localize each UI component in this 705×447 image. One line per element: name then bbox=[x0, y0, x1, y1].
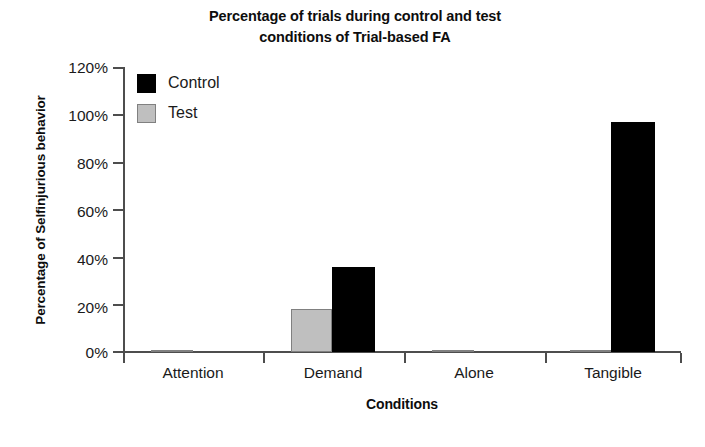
chart-legend: Control Test bbox=[137, 70, 267, 130]
y-tick-mark-120 bbox=[113, 67, 123, 69]
x-tick-mark-1 bbox=[263, 353, 265, 363]
bar-test-alone bbox=[432, 350, 474, 352]
x-tick-label-alone: Alone bbox=[404, 364, 544, 382]
legend-item-test: Test bbox=[137, 100, 267, 126]
bar-control-demand bbox=[332, 267, 375, 352]
legend-label-test: Test bbox=[168, 104, 197, 122]
x-tick-label-attention: Attention bbox=[123, 364, 263, 382]
legend-swatch-control-icon bbox=[137, 74, 156, 93]
y-tick-label-40: 40% bbox=[54, 252, 108, 267]
y-tick-label-20: 20% bbox=[54, 300, 108, 315]
y-tick-label-0: 0% bbox=[54, 345, 108, 360]
y-tick-label-60: 60% bbox=[54, 204, 108, 219]
chart-title-line-2: conditions of Trial-based FA bbox=[120, 27, 590, 48]
bar-control-tangible bbox=[611, 122, 655, 352]
x-tick-mark-3 bbox=[545, 353, 547, 363]
y-axis-title: Percentage of Selfinjurious behavior bbox=[33, 95, 48, 324]
y-tick-mark-60 bbox=[113, 209, 123, 211]
y-tick-mark-20 bbox=[113, 304, 123, 306]
bar-chart-figure: Percentage of trials during control and … bbox=[0, 0, 705, 447]
legend-swatch-test-icon bbox=[137, 104, 156, 123]
y-tick-mark-40 bbox=[113, 257, 123, 259]
x-tick-label-demand: Demand bbox=[263, 364, 403, 382]
chart-title-line-1: Percentage of trials during control and … bbox=[120, 6, 590, 27]
legend-item-control: Control bbox=[137, 70, 267, 96]
bar-test-attention bbox=[151, 350, 193, 352]
y-tick-label-80: 80% bbox=[54, 156, 108, 171]
y-tick-mark-100 bbox=[113, 114, 123, 116]
x-tick-label-tangible: Tangible bbox=[543, 364, 683, 382]
y-axis-title-container: Percentage of Selfinjurious behavior bbox=[30, 50, 50, 370]
y-tick-mark-0 bbox=[113, 351, 123, 353]
y-tick-label-120: 120% bbox=[54, 60, 108, 75]
y-tick-label-100: 100% bbox=[54, 108, 108, 123]
x-axis-title: Conditions bbox=[123, 396, 681, 412]
y-axis-tick-labels: 120% 100% 80% 60% 40% 20% 0% bbox=[50, 0, 108, 447]
legend-label-control: Control bbox=[168, 74, 220, 92]
x-tick-mark-4 bbox=[680, 353, 682, 363]
y-tick-mark-80 bbox=[113, 162, 123, 164]
bar-test-demand bbox=[291, 309, 332, 352]
chart-title: Percentage of trials during control and … bbox=[120, 6, 590, 48]
x-tick-mark-2 bbox=[404, 353, 406, 363]
bar-test-tangible bbox=[570, 350, 611, 352]
x-tick-mark-0 bbox=[123, 353, 125, 363]
